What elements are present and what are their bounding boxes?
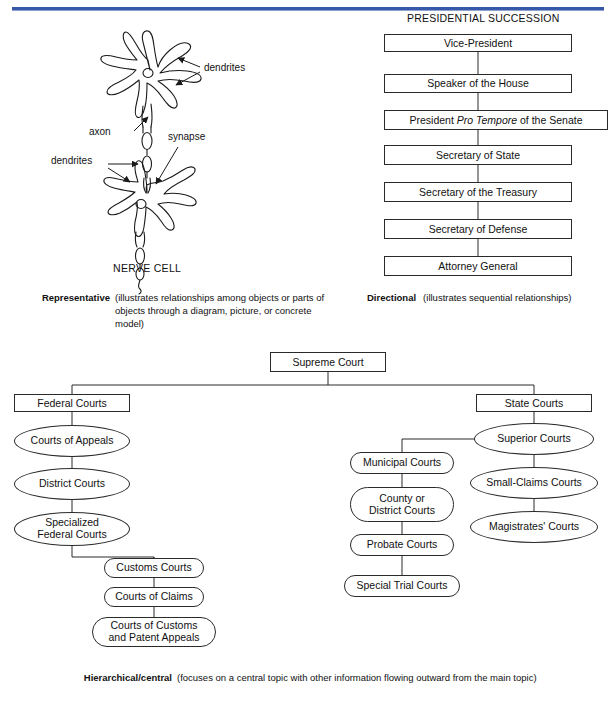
court-federal-branch-courts-of-claims: Courts of Claims bbox=[104, 587, 204, 607]
court-federal-node-courts-of-appeals: Courts of Appeals bbox=[14, 425, 130, 457]
caption-hierarchical-term: Hierarchical/central bbox=[68, 671, 177, 684]
court-federal-branch-customs-courts: Customs Courts bbox=[104, 558, 204, 578]
court-state-branch-county-or-district-courts: County or District Courts bbox=[350, 487, 454, 522]
caption-hierarchical-body: (focuses on a central topic with other i… bbox=[177, 671, 548, 684]
court-state-head: State Courts bbox=[476, 394, 592, 412]
court-state-branch-municipal-courts: Municipal Courts bbox=[350, 452, 454, 474]
court-root-supreme-court: Supreme Court bbox=[270, 352, 386, 372]
court-state-branch-probate-courts: Probate Courts bbox=[350, 534, 454, 556]
caption-hierarchical: Hierarchical/central (focuses on a centr… bbox=[68, 671, 548, 684]
court-state-node-magistrates-courts: Magistrates' Courts bbox=[470, 511, 598, 543]
court-federal-node-specialized-federal-courts: Specialized Federal Courts bbox=[14, 512, 130, 546]
court-federal-branch-courts-of-customs-and-patent-appeals: Courts of Customs and Patent Appeals bbox=[92, 617, 216, 647]
page-root: dendrites axon synapse dendrites NERVE C… bbox=[0, 0, 612, 714]
court-federal-node-district-courts: District Courts bbox=[14, 468, 130, 500]
court-state-node-small-claims-courts: Small-Claims Courts bbox=[470, 467, 598, 499]
court-state-node-superior-courts: Superior Courts bbox=[474, 423, 594, 455]
court-federal-head: Federal Courts bbox=[14, 394, 130, 412]
court-state-branch-special-trial-courts: Special Trial Courts bbox=[344, 575, 460, 597]
